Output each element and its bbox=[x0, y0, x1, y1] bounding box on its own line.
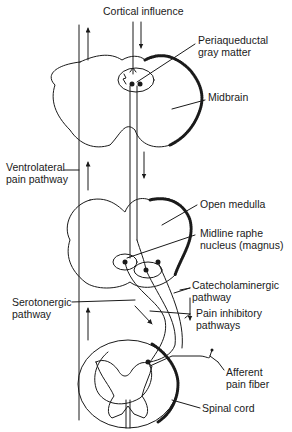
label-ventrolateral-line1: Ventrolateral bbox=[6, 162, 68, 174]
label-midline-raphe: Midline raphe nucleus (magnus) bbox=[200, 228, 283, 251]
label-raphe-line1: Midline raphe bbox=[200, 228, 283, 240]
label-afferent-line2: pain fiber bbox=[226, 379, 269, 391]
label-periaqueductal: Periaqueductal gray matter bbox=[198, 35, 268, 58]
label-cortical-influence: Cortical influence bbox=[103, 6, 184, 18]
label-afferent-line1: Afferent bbox=[226, 367, 269, 379]
label-midbrain: Midbrain bbox=[208, 92, 248, 104]
label-raphe-line2: nucleus (magnus) bbox=[200, 240, 283, 252]
midbrain-section bbox=[51, 55, 202, 147]
label-spinal-cord: Spinal cord bbox=[202, 403, 255, 415]
label-pain-inhibitory-line2: pathways bbox=[196, 320, 262, 332]
label-afferent-pain-fiber: Afferent pain fiber bbox=[226, 367, 269, 390]
label-open-medulla: Open medulla bbox=[200, 199, 265, 211]
label-serotonergic-line2: pathway bbox=[12, 309, 72, 321]
label-pain-inhibitory: Pain inhibitory pathways bbox=[196, 308, 262, 331]
label-catecholaminergic: Catecholaminergic pathway bbox=[192, 280, 279, 303]
label-pain-inhibitory-line1: Pain inhibitory bbox=[196, 308, 262, 320]
label-periaqueductal-line2: gray matter bbox=[198, 47, 268, 59]
label-periaqueductal-line1: Periaqueductal bbox=[198, 35, 268, 47]
spinal-cord-section bbox=[78, 340, 178, 428]
label-catecholaminergic-line2: pathway bbox=[192, 292, 279, 304]
label-ventrolateral: Ventrolateral pain pathway bbox=[6, 162, 68, 185]
label-serotonergic-line1: Serotonergic bbox=[12, 297, 72, 309]
label-serotonergic: Serotonergic pathway bbox=[12, 297, 72, 320]
label-ventrolateral-line2: pain pathway bbox=[6, 174, 68, 186]
label-catecholaminergic-line1: Catecholaminergic bbox=[192, 280, 279, 292]
